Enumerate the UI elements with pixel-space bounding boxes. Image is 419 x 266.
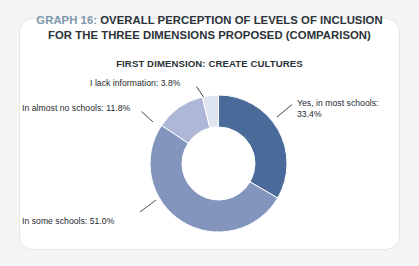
leader-line-almost [142,112,154,123]
screenshot-root: GRAPH 16: OVERALL PERCEPTION OF LEVELS O… [0,0,419,266]
leader-line-yes [277,105,292,118]
donut-chart: I lack information: 3.8% In almost no sc… [0,0,419,266]
donut-slices [150,95,287,232]
slice-label-in-some-schools: In some schools: 51.0% [22,216,114,227]
slice-label-i-lack-information: I lack information: 3.8% [90,78,181,89]
slice-label-yes-in-most-schools: Yes, in most schools: 33.4% [297,98,393,120]
donut-slice [219,95,287,198]
slice-label-in-almost-no-schools: In almost no schools: 11.8% [22,103,130,114]
leader-line-some [140,200,156,212]
leader-line-lack [197,87,204,98]
